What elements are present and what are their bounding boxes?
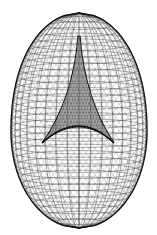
- wireframe-figure: [0, 0, 157, 235]
- egg-wireframe-mesh: [0, 0, 157, 235]
